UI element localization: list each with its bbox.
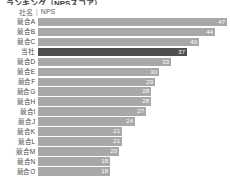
bar-row: 競合I27 bbox=[0, 107, 230, 117]
bar-track: 44 bbox=[38, 28, 230, 36]
bar-value-label: 30 bbox=[150, 68, 157, 76]
bar: 21 bbox=[38, 137, 122, 145]
chart-title-clipped: ランキング（NPSスコア） bbox=[6, 0, 156, 5]
bar: 18 bbox=[38, 157, 110, 165]
bar-row: 競合M20 bbox=[0, 147, 230, 157]
bar-value-label: 18 bbox=[101, 157, 108, 165]
bar-row-label: 競合B bbox=[0, 27, 38, 36]
bar: 18 bbox=[38, 167, 110, 175]
bar-row: 競合D33 bbox=[0, 57, 230, 67]
bar-track: 40 bbox=[38, 38, 230, 46]
bar-row-label: 競合E bbox=[0, 67, 38, 76]
bar-track: 24 bbox=[38, 117, 230, 125]
bar-track: 20 bbox=[38, 147, 230, 155]
bar: 30 bbox=[38, 68, 159, 76]
bar: 20 bbox=[38, 147, 119, 155]
bar-row: 競合A47 bbox=[0, 17, 230, 27]
bar-row: 競合F29 bbox=[0, 77, 230, 87]
bar-row-label: 競合G bbox=[0, 87, 38, 96]
bar-track: 30 bbox=[38, 68, 230, 76]
bar-track: 21 bbox=[38, 137, 230, 145]
bar-row: 当社37 bbox=[0, 47, 230, 57]
bar: 24 bbox=[38, 117, 135, 125]
bar-row-label: 競合F bbox=[0, 77, 38, 86]
bar-row: 競合K21 bbox=[0, 127, 230, 137]
bar-value-label: 40 bbox=[190, 38, 197, 46]
bar-value-label: 28 bbox=[142, 87, 149, 95]
bar-row: 競合G28 bbox=[0, 87, 230, 97]
bar-row-label: 競合N bbox=[0, 157, 38, 166]
bar-row: 競合E30 bbox=[0, 67, 230, 77]
bar-value-label: 21 bbox=[113, 137, 120, 145]
bar-value-label: 27 bbox=[137, 107, 144, 115]
bar-row-label: 競合A bbox=[0, 17, 38, 26]
bar-row-label: 当社 bbox=[0, 47, 38, 56]
bar-track: 21 bbox=[38, 127, 230, 135]
bar-track: 28 bbox=[38, 97, 230, 105]
column-header-company: 社名 bbox=[0, 7, 36, 17]
bar-row: 競合H28 bbox=[0, 97, 230, 107]
bar-value-label: 28 bbox=[142, 97, 149, 105]
bar-row: 競合J24 bbox=[0, 117, 230, 127]
column-header-nps: NPS bbox=[41, 8, 55, 15]
bar-row-label: 競合I bbox=[0, 107, 38, 116]
bar-value-label: 37 bbox=[178, 48, 185, 56]
bar-row-label: 競合O bbox=[0, 167, 38, 176]
bar-value-label: 18 bbox=[101, 167, 108, 175]
bar-row-label: 競合K bbox=[0, 127, 38, 136]
bar: 44 bbox=[38, 28, 215, 36]
bar-row: 競合O18 bbox=[0, 167, 230, 177]
bar-row-label: 競合C bbox=[0, 37, 38, 46]
bar-row-label: 競合D bbox=[0, 57, 38, 66]
bar: 29 bbox=[38, 78, 155, 86]
bar: 40 bbox=[38, 38, 199, 46]
bar: 21 bbox=[38, 127, 122, 135]
bar-value-label: 33 bbox=[162, 58, 169, 66]
bar: 47 bbox=[38, 18, 227, 26]
bar-track: 18 bbox=[38, 167, 230, 175]
bar-row: 競合B44 bbox=[0, 27, 230, 37]
bar-value-label: 29 bbox=[146, 78, 153, 86]
bar-row-label: 競合L bbox=[0, 137, 38, 146]
bar-track: 28 bbox=[38, 87, 230, 95]
bar-self: 37 bbox=[38, 48, 187, 56]
bar-value-label: 44 bbox=[206, 28, 213, 36]
bar-row: 競合C40 bbox=[0, 37, 230, 47]
bar: 33 bbox=[38, 58, 171, 66]
nps-ranking-chart: ランキング（NPSスコア） 社名 | NPS 競合A47競合B44競合C40当社… bbox=[0, 0, 230, 177]
bar: 28 bbox=[38, 97, 151, 105]
bar-row-list: 競合A47競合B44競合C40当社37競合D33競合E30競合F29競合G28競… bbox=[0, 17, 230, 177]
bar-row: 競合L21 bbox=[0, 137, 230, 147]
bar-value-label: 21 bbox=[113, 127, 120, 135]
bar: 27 bbox=[38, 107, 146, 115]
bar-row-label: 競合J bbox=[0, 117, 38, 126]
bar-row-label: 競合M bbox=[0, 147, 38, 156]
bar: 28 bbox=[38, 87, 151, 95]
bar-row: 競合N18 bbox=[0, 157, 230, 167]
bar-track: 27 bbox=[38, 107, 230, 115]
bar-track: 18 bbox=[38, 157, 230, 165]
bar-track: 47 bbox=[38, 18, 230, 26]
bar-track: 33 bbox=[38, 58, 230, 66]
bar-value-label: 47 bbox=[218, 18, 225, 26]
bar-value-label: 24 bbox=[126, 117, 133, 125]
bar-track: 37 bbox=[38, 48, 230, 56]
bar-track: 29 bbox=[38, 78, 230, 86]
column-header-row: 社名 | NPS bbox=[0, 6, 230, 17]
bar-value-label: 20 bbox=[110, 147, 117, 155]
bar-row-label: 競合H bbox=[0, 97, 38, 106]
